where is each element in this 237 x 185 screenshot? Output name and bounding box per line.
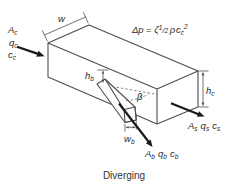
duct-height-label: hc [206, 85, 215, 97]
inlet-velocity-label: cc [8, 49, 17, 61]
branch-width-arrowhead-left [125, 126, 128, 128]
figure-caption: Diverging [103, 170, 145, 181]
branch-outlet-label: Abqbcb [144, 148, 179, 160]
diverging-tee-diagram: Ac qc cc w Δp=ζ1/2ρcc2 hb β hc wb Asqscs… [0, 0, 237, 185]
inlet-area-label: Ac [7, 24, 18, 36]
inlet-flow-arrow-shaft [17, 47, 38, 54]
inlet-flow-label: qc [9, 37, 18, 49]
height-dim-arrowhead-top [202, 72, 205, 76]
branch-angle-label: β [136, 91, 143, 102]
duct-width-label: w [58, 13, 66, 24]
straight-outlet-label: Asqscs [187, 120, 221, 132]
branch-width-label: wb [124, 133, 135, 145]
inlet-flow-arrowhead [36, 51, 44, 57]
pressure-loss-formula: Δp=ζ1/2ρcc2 [131, 23, 188, 36]
straight-outlet-flow-arrowhead [197, 111, 205, 117]
height-dim-arrowhead-bottom [202, 103, 205, 107]
